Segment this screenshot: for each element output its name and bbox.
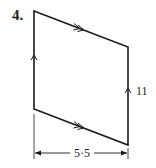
question-number: 4.: [12, 7, 23, 24]
base-dimension-label: 5·5: [70, 146, 94, 161]
parallelogram-diagram: 4. 11 5·5: [0, 0, 156, 168]
dimension-arrowhead-right-icon: [121, 151, 127, 156]
diagram-canvas: [0, 0, 156, 168]
dimension-arrowhead-left-icon: [35, 151, 41, 156]
right-side-length-label: 11: [136, 84, 148, 99]
